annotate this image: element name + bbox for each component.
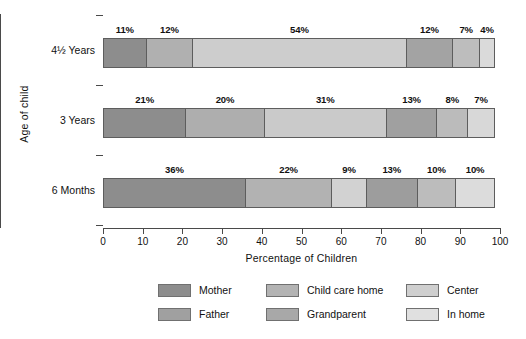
bar-segment[interactable]: 20% (185, 108, 264, 138)
category-label-0: 4½ Years (20, 44, 95, 56)
x-axis-tick (302, 228, 303, 234)
segment-value-label: 9% (342, 164, 356, 175)
legend-label: In home (447, 308, 485, 320)
x-axis-tick (182, 228, 183, 234)
bar-segment[interactable]: 12% (146, 38, 194, 68)
x-axis-tick-label: 10 (137, 236, 148, 247)
y-axis-tick (96, 15, 103, 16)
legend-item-child-care-home[interactable]: Child care home (266, 284, 406, 297)
bar-segment[interactable]: 13% (366, 178, 418, 208)
legend-item-grandparent[interactable]: Grandparent (266, 308, 406, 321)
segment-value-label: 21% (135, 94, 154, 105)
bar-row: 21% 20% 31% 13% 8% 7% (103, 108, 500, 138)
legend-swatch-icon (406, 308, 439, 321)
x-axis-tick (500, 228, 501, 234)
stacked-bar-chart: Age of child 4½ Years 3 Years 6 Months 1… (0, 0, 526, 339)
y-axis-line (0, 14, 1, 228)
x-axis-tick-label: 40 (256, 236, 267, 247)
bar-row: 36% 22% 9% 13% 10% 10% (103, 178, 500, 208)
segment-value-label: 7% (474, 94, 488, 105)
segment-value-label: 12% (420, 24, 439, 35)
bar-segment[interactable]: 11% (103, 38, 147, 68)
segment-value-label: 54% (290, 24, 309, 35)
bar-segment[interactable]: 12% (406, 38, 454, 68)
x-axis-tick-label: 70 (375, 236, 386, 247)
legend-swatch-icon (158, 284, 191, 297)
legend-swatch-icon (406, 284, 439, 297)
bar-track: 21% 20% 31% 13% 8% 7% (103, 108, 500, 138)
segment-value-label: 20% (216, 94, 235, 105)
bar-track: 36% 22% 9% 13% 10% 10% (103, 178, 500, 208)
segment-value-label: 22% (279, 164, 298, 175)
chart-legend: Mother Child care home Center Father Gra… (158, 278, 488, 326)
x-axis-tick (143, 228, 144, 234)
y-axis-tick (96, 225, 103, 226)
x-axis-tick (262, 228, 263, 234)
segment-value-label: 12% (160, 24, 179, 35)
segment-value-label: 36% (165, 164, 184, 175)
segment-value-label: 10% (466, 164, 485, 175)
x-axis-title: Percentage of Children (103, 252, 500, 264)
bar-segment[interactable]: 36% (103, 178, 246, 208)
bar-track: 11% 12% 54% 12% 7% 4% (103, 38, 500, 68)
legend-swatch-icon (266, 284, 299, 297)
x-axis-tick (460, 228, 461, 234)
legend-item-mother[interactable]: Mother (158, 284, 266, 297)
x-axis-tick (381, 228, 382, 234)
y-axis-tick (96, 85, 103, 86)
x-axis-tick (341, 228, 342, 234)
bar-segment[interactable]: 9% (331, 178, 367, 208)
segment-value-label: 13% (382, 164, 401, 175)
segment-value-label: 8% (446, 94, 460, 105)
x-axis-tick-label: 0 (100, 236, 106, 247)
segment-value-label: 7% (459, 24, 473, 35)
segment-value-label: 11% (116, 24, 134, 35)
legend-item-center[interactable]: Center (406, 284, 506, 297)
x-axis-tick-label: 60 (336, 236, 347, 247)
legend-label: Father (199, 308, 229, 320)
x-axis-tick-label: 20 (177, 236, 188, 247)
bar-segment[interactable]: 8% (436, 108, 468, 138)
category-label-1: 3 Years (20, 114, 95, 126)
segment-value-label: 4% (480, 24, 494, 35)
bar-segment[interactable]: 10% (455, 178, 495, 208)
x-axis-tick-label: 50 (296, 236, 307, 247)
bar-segment[interactable]: 31% (264, 108, 387, 138)
bar-segment[interactable]: 54% (192, 38, 406, 68)
legend-swatch-icon (266, 308, 299, 321)
bar-segment[interactable]: 7% (467, 108, 495, 138)
bar-segment[interactable]: 4% (479, 38, 495, 68)
y-axis-tick (96, 155, 103, 156)
bar-segment[interactable]: 22% (245, 178, 332, 208)
x-axis-tick (103, 228, 104, 234)
bar-segment[interactable]: 13% (386, 108, 438, 138)
segment-value-label: 13% (402, 94, 421, 105)
bar-segment[interactable]: 10% (417, 178, 457, 208)
legend-item-in-home[interactable]: In home (406, 308, 506, 321)
bar-segment[interactable]: 7% (452, 38, 480, 68)
segment-value-label: 10% (427, 164, 446, 175)
x-axis-tick-label: 80 (415, 236, 426, 247)
legend-label: Child care home (307, 284, 383, 296)
bar-segment[interactable]: 21% (103, 108, 186, 138)
segment-value-label: 31% (316, 94, 335, 105)
category-label-2: 6 Months (20, 184, 95, 196)
legend-swatch-icon (158, 308, 191, 321)
legend-label: Mother (199, 284, 232, 296)
x-axis-tick-label: 100 (492, 236, 509, 247)
x-axis-tick-label: 30 (217, 236, 228, 247)
legend-label: Grandparent (307, 308, 366, 320)
bar-row: 11% 12% 54% 12% 7% 4% (103, 38, 500, 68)
legend-label: Center (447, 284, 479, 296)
x-axis-tick-label: 90 (455, 236, 466, 247)
legend-item-father[interactable]: Father (158, 308, 266, 321)
x-axis-tick (421, 228, 422, 234)
x-axis-tick (222, 228, 223, 234)
